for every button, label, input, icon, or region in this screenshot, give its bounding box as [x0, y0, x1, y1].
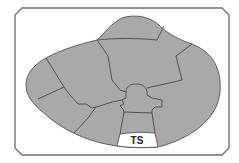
- region-diagram: TS: [0, 0, 239, 163]
- diagram-canvas: TS: [0, 0, 239, 163]
- ts-label: TS: [131, 135, 144, 146]
